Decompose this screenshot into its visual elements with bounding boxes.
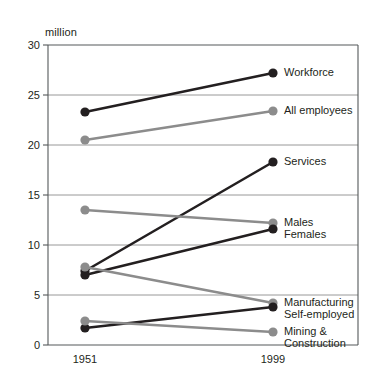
series-label: Workforce: [284, 66, 334, 78]
y-tick-label: 25: [28, 89, 40, 101]
series-label: Construction: [284, 337, 346, 349]
data-point-marker: [80, 270, 89, 279]
x-tick-label: 1951: [73, 353, 97, 365]
series-line: [85, 267, 273, 303]
y-tick-label: 0: [34, 339, 40, 351]
series-label: Females: [284, 228, 327, 240]
y-tick-label: 5: [34, 289, 40, 301]
y-tick-labels-group: 051015202530: [28, 39, 40, 351]
data-point-marker: [268, 302, 277, 311]
series-label: Services: [284, 155, 327, 167]
data-point-marker: [268, 157, 277, 166]
series-line: [85, 321, 273, 332]
series-label: Manufacturing: [284, 296, 354, 308]
series-markers-group: [80, 68, 277, 336]
data-point-marker: [268, 327, 277, 336]
data-point-marker: [80, 107, 89, 116]
series-lines-group: [85, 73, 273, 332]
series-label: Males: [284, 216, 314, 228]
series-line: [85, 307, 273, 328]
y-tick-label: 20: [28, 139, 40, 151]
series-line: [85, 210, 273, 223]
data-point-marker: [268, 106, 277, 115]
data-point-marker: [80, 316, 89, 325]
y-tick-label: 15: [28, 189, 40, 201]
series-label: Mining &: [284, 325, 327, 337]
data-point-marker: [80, 262, 89, 271]
series-line: [85, 111, 273, 140]
data-point-marker: [80, 135, 89, 144]
series-line: [85, 229, 273, 275]
x-tick-labels-group: 19511999: [73, 353, 285, 365]
chart-canvas: 051015202530 WorkforceAll employeesServi…: [0, 0, 378, 379]
data-point-marker: [268, 68, 277, 77]
series-labels-group: WorkforceAll employeesServicesMalesFemal…: [284, 66, 354, 349]
y-tick-label: 10: [28, 239, 40, 251]
y-tick-label: 30: [28, 39, 40, 51]
series-label: Self-employed: [284, 308, 354, 320]
x-tick-label: 1999: [261, 353, 285, 365]
data-point-marker: [268, 224, 277, 233]
data-point-marker: [80, 205, 89, 214]
series-label: All employees: [284, 104, 353, 116]
slope-chart: changing composition of employment in th…: [0, 0, 378, 379]
series-line: [85, 73, 273, 112]
